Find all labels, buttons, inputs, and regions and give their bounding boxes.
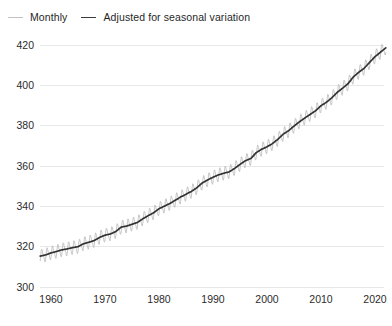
y-tick-label: 420	[16, 39, 34, 51]
plot-area: 300320340360380400420 196019701980199020…	[0, 0, 392, 326]
x-tick-label: 2000	[255, 293, 279, 305]
y-tick-label: 360	[16, 160, 34, 172]
x-tick-label: 1990	[201, 293, 225, 305]
y-tick-label: 340	[16, 200, 34, 212]
x-tick-label: 1970	[93, 293, 117, 305]
x-axis-ticklabels: 1960197019801990200020102020	[39, 293, 387, 305]
x-tick-label: 1960	[39, 293, 63, 305]
gridlines	[40, 45, 384, 287]
x-tick-label: 2010	[309, 293, 333, 305]
series-line-adjusted	[40, 48, 386, 256]
y-tick-label: 320	[16, 240, 34, 252]
series-line-monthly	[40, 44, 386, 262]
y-tick-label: 380	[16, 119, 34, 131]
y-tick-label: 400	[16, 79, 34, 91]
y-axis-ticklabels: 300320340360380400420	[16, 39, 34, 293]
chart-root: Monthly Adjusted for seasonal variation …	[0, 0, 392, 326]
chart-svg: 300320340360380400420 196019701980199020…	[0, 0, 392, 326]
x-tick-label: 1980	[147, 293, 171, 305]
y-tick-label: 300	[16, 281, 34, 293]
x-tick-label: 2020	[363, 293, 387, 305]
